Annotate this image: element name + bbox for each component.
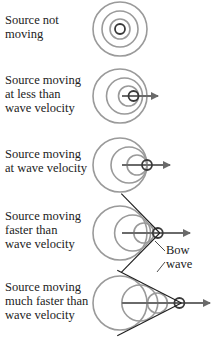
bow-wave-line-lower — [121, 233, 159, 272]
wavefront-circle — [110, 19, 130, 39]
wave-diagram: Bow wave — [0, 0, 217, 354]
bow-wave-pointer-upper — [155, 241, 165, 251]
bow-wave-label-line2: wave — [166, 257, 193, 271]
bow-wave-pointer-lower — [157, 262, 165, 272]
wavefront-circle — [102, 11, 138, 47]
bow-wave-line-upper — [121, 194, 159, 233]
bow-wave-label-line1: Bow — [166, 243, 190, 257]
wave-source — [115, 24, 125, 34]
wavefront-circle — [93, 2, 147, 56]
